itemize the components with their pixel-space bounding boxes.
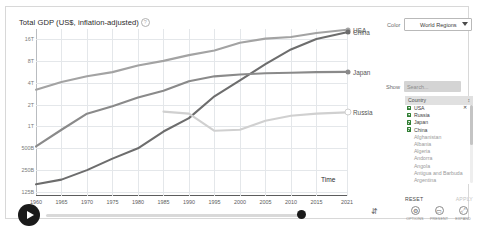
list-item-label: China [414,127,428,133]
list-item-label: Afghanistan [407,134,441,140]
entity-selector-panel: Country ↕ USA✕RussiaJapanChinaAfghanista… [405,96,473,194]
x-tick-label: 1980 [132,199,144,205]
present-icon: ▭ [435,206,444,215]
y-tick-label: 4T [8,80,34,86]
list-item[interactable]: Antigua and Barbuda [405,169,473,176]
y-tick-label: 16T [8,36,34,42]
entity-list-scrollbar[interactable] [470,105,473,183]
x-tick-label: 1965 [55,199,67,205]
list-item[interactable]: Andorra [405,155,473,162]
series-label-russia[interactable]: Russia [353,109,373,116]
y-tick-label: 125B [8,189,34,195]
series-endpoint-dot[interactable] [346,30,351,35]
show-control: Show Search... [386,81,461,92]
entity-list[interactable]: USA✕RussiaJapanChinaAfghanistanAlbaniaAl… [405,105,473,184]
list-item-label: Angola [407,163,430,169]
y-tick-label: 1T [8,123,34,129]
info-icon[interactable]: ? [141,18,150,27]
entity-list-header[interactable]: Country ↕ [405,96,473,105]
x-tick-label: 1985 [157,199,169,205]
plot-area: 16T8T4T2T1T500B250B125B 1960196519701975… [36,29,347,196]
color-select[interactable]: World Regions [404,18,472,31]
expand-icon: ⤢ [459,206,468,215]
x-tick-label: 1975 [106,199,118,205]
list-item[interactable]: China [405,126,473,133]
checkbox-checked-icon[interactable] [407,113,411,117]
list-item-label: USA [414,105,425,111]
series-endpoint-dot[interactable] [346,69,351,74]
list-item-label: Algeria [407,148,430,154]
play-button[interactable] [18,204,40,226]
series-lines [36,29,347,196]
list-item[interactable]: Albania [405,140,473,147]
entity-header-label: Country [408,97,426,103]
list-item-label: Japan [414,119,428,125]
panel-actions: RESET APPLY [405,196,473,202]
line-series [36,72,347,147]
list-item-label: Albania [407,141,431,147]
checkbox-checked-icon[interactable] [407,127,411,131]
y-tick-label: 2T [8,102,34,108]
present-button[interactable]: ▭PRESENT [428,206,450,221]
list-item[interactable]: Japan [405,119,473,126]
apply-button[interactable]: APPLY [456,196,473,202]
y-tick-label: 500B [8,145,34,151]
tool-label: EXPAND [455,217,471,221]
list-item[interactable]: USA✕ [405,105,473,112]
list-item-label: Antigua and Barbuda [407,170,463,176]
series-endpoint-dot[interactable] [345,109,352,116]
chevron-down-icon [462,22,468,26]
bookmark-icon[interactable]: ⇵ [371,207,378,216]
chart-frame: Total GDP (US$, inflation-adjusted)? 16T… [5,6,469,219]
color-control: Color World Regions [387,18,472,31]
timeline-track[interactable] [46,214,304,217]
list-item-label: Andorra [407,155,432,161]
timeline-handle[interactable] [297,210,306,219]
x-tick-label: 1995 [208,199,220,205]
color-select-value: World Regions [420,22,457,28]
list-item[interactable]: Russia [405,112,473,119]
y-tick-label: 8T [8,58,34,64]
list-item[interactable]: Argentina [405,176,473,183]
settings-button[interactable]: ⚙OPTIONS [404,206,426,221]
list-item[interactable]: Angola [405,162,473,169]
tool-label: OPTIONS [406,217,423,221]
scrollbar-thumb[interactable] [470,105,473,145]
color-label: Color [387,22,400,28]
series-label-japan[interactable]: Japan [353,68,370,75]
show-label: Show [386,84,400,90]
x-tick-label: 1970 [81,199,93,205]
x-tick-label: 2000 [234,199,246,205]
line-series [163,112,347,131]
y-tick-label: 250B [8,167,34,173]
checkbox-checked-icon[interactable] [407,120,411,124]
settings-icon: ⚙ [411,206,420,215]
tool-label: PRESENT [430,217,448,221]
list-item-label: Argentina [407,177,436,183]
page-title: Total GDP (US$, inflation-adjusted)? [19,18,150,27]
x-tick-label: 1990 [183,199,195,205]
expand-button[interactable]: ⤢EXPAND [452,206,474,221]
sort-caret-icon[interactable]: ↕ [467,97,470,103]
search-input[interactable]: Search... [404,81,461,92]
list-item-label: Russia [414,112,430,118]
close-icon[interactable]: ✕ [463,105,467,110]
series-label-china[interactable]: China [353,29,370,36]
list-item[interactable]: Afghanistan [405,133,473,140]
footer-tools: ⚙OPTIONS▭PRESENT⤢EXPAND [404,206,474,221]
x-tick-label: 2015 [310,199,322,205]
chart-title-text: Total GDP (US$, inflation-adjusted) [19,18,139,27]
reset-button[interactable]: RESET [405,196,423,202]
x-tick-label: 2005 [259,199,271,205]
list-item[interactable]: Algeria [405,148,473,155]
checkbox-checked-icon[interactable] [407,106,411,110]
search-placeholder: Search... [404,84,429,90]
chart-app: Total GDP (US$, inflation-adjusted)? 16T… [0,0,477,232]
x-axis-label: Time [321,176,335,183]
x-tick-label: 2010 [285,199,297,205]
x-tick-label: 2021 [341,199,353,205]
